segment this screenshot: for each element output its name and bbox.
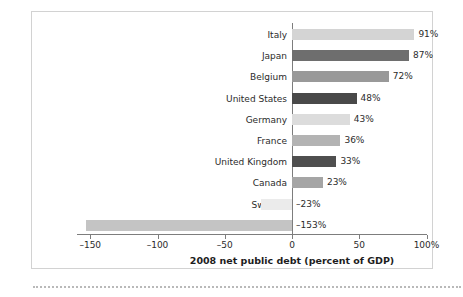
bar <box>292 93 357 104</box>
bar-value-label: 43% <box>354 114 374 125</box>
bar-value-label: 72% <box>393 71 413 82</box>
x-tick <box>225 235 226 239</box>
category-label: France <box>257 136 287 146</box>
plot-area: –150–100–50050100% ItalyJapanBelgiumUnit… <box>31 11 433 269</box>
bar <box>292 50 409 61</box>
bar <box>292 177 323 188</box>
figure-container: –150–100–50050100% ItalyJapanBelgiumUnit… <box>0 0 463 297</box>
x-tick-label: –50 <box>217 240 233 250</box>
bar <box>292 135 340 146</box>
x-tick <box>427 235 428 239</box>
bar <box>292 156 336 167</box>
bar-value-label: 23% <box>327 177 347 188</box>
bar <box>86 220 292 231</box>
bar <box>292 29 414 40</box>
x-axis-line <box>77 234 427 235</box>
bar-value-label: 36% <box>344 135 364 146</box>
bar-value-label: 91% <box>418 29 438 40</box>
category-label: Japan <box>262 51 287 61</box>
x-tick-label: 0 <box>289 240 295 250</box>
x-axis-title: 2008 net public debt (percent of GDP) <box>190 255 394 266</box>
x-tick-label: 100% <box>414 240 440 250</box>
category-label: Germany <box>246 115 287 125</box>
x-tick <box>359 235 360 239</box>
bar <box>261 199 292 210</box>
category-label: Belgium <box>250 72 287 82</box>
category-label: United States <box>226 94 287 104</box>
x-tick <box>158 235 159 239</box>
x-tick-label: 50 <box>354 240 365 250</box>
x-tick <box>90 235 91 239</box>
bar-value-label: –23% <box>296 199 321 210</box>
category-label: Canada <box>253 178 287 188</box>
bar-value-label: –153% <box>296 220 326 231</box>
x-tick-label: –150 <box>79 240 101 250</box>
x-tick-label: –100 <box>147 240 169 250</box>
category-label: United Kingdom <box>215 157 287 167</box>
bar-value-label: 87% <box>413 50 433 61</box>
bar-value-label: 33% <box>340 156 360 167</box>
bar-value-label: 48% <box>361 93 381 104</box>
x-tick <box>292 235 293 239</box>
category-label: Italy <box>267 30 287 40</box>
bar <box>292 71 389 82</box>
bar <box>292 114 350 125</box>
dotted-divider <box>33 286 461 289</box>
